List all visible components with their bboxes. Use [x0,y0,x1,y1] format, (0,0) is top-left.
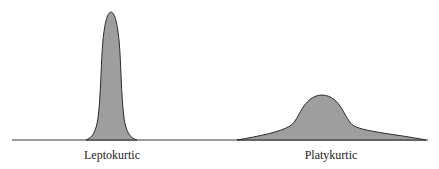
leptokurtic-curve [86,12,137,140]
platykurtic-label: Platykurtic [305,148,358,162]
kurtosis-diagram: Leptokurtic Platykurtic [0,0,439,169]
platykurtic-curve [237,95,426,140]
leptokurtic-label: Leptokurtic [84,148,140,162]
